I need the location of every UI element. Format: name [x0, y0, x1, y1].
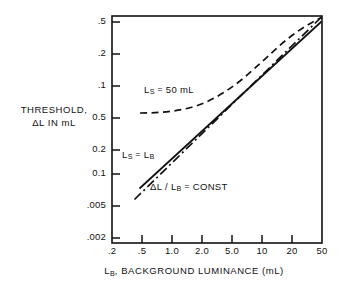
curve-label-ls-50ml-rest: 50 mL	[166, 84, 194, 95]
y-tick-label-5: 0.1	[66, 168, 106, 179]
curve-ls-50ml	[140, 18, 322, 114]
y-tick-label-2: .1	[66, 80, 106, 91]
y-tick-label-4: 0.2	[66, 144, 106, 155]
curve-label-ls-eq-lb: LS = LB	[122, 149, 154, 161]
x-axis-title: LB, BACKGROUND LUMINANCE (mL)	[62, 266, 326, 278]
figure-root: .5 .2 .1 0.5 0.2 0.1 .005 .002 .2 .5 1.0…	[0, 0, 342, 288]
y-tick-label-0: .5	[66, 16, 106, 27]
x-axis-title-rest: , BACKGROUND LUMINANCE (mL)	[115, 265, 284, 276]
equals-icon-3: =	[181, 181, 192, 191]
x-axis-ticks	[142, 235, 292, 243]
equals-icon: =	[154, 84, 165, 94]
y-axis-title-line1: THRESHOLD,	[21, 104, 88, 115]
curve-label-const-rest: CONST	[193, 181, 228, 192]
y-axis-title: THRESHOLD, ΔL IN mL	[6, 104, 102, 130]
y-tick-label-6: .005	[66, 200, 106, 211]
y-axis-ticks	[112, 22, 120, 238]
equals-icon-2: =	[132, 149, 143, 159]
y-tick-label-7: .002	[66, 232, 106, 243]
curve-label-ls-eq-lb-sub2: B	[149, 152, 154, 161]
curve-label-ls-50ml: LS = 50 mL	[144, 84, 194, 96]
y-tick-label-1: .2	[66, 48, 106, 59]
curve-dl-over-lb-const	[135, 17, 322, 200]
curve-label-dl-over-lb-const: ΔL / LB = CONST	[150, 181, 228, 193]
x-tick-label-7: 50	[304, 246, 340, 257]
curve-label-const-main: ΔL / L	[150, 181, 177, 192]
y-axis-title-line2: ΔL IN mL	[32, 117, 76, 128]
